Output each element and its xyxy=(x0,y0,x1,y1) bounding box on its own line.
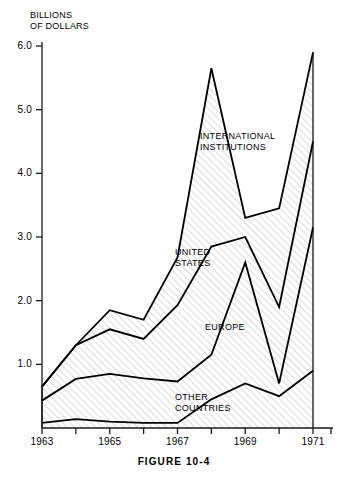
y-axis-tick-label: 1.0 xyxy=(6,358,32,369)
y-axis-title: BILLIONS OF DOLLARS xyxy=(30,10,89,32)
y-axis-tick-label: 3.0 xyxy=(6,231,32,242)
series-label-united-states: UNITED STATES xyxy=(175,247,210,269)
series-label-europe: EUROPE xyxy=(205,322,245,333)
y-axis-tick-label: 4.0 xyxy=(6,167,32,178)
series-label-international-institutions: INTERNATIONAL INSTITUTIONS xyxy=(200,131,275,153)
y-axis-tick-label: 2.0 xyxy=(6,295,32,306)
x-axis-tick-label: 1965 xyxy=(92,436,128,447)
x-axis-tick-label: 1969 xyxy=(227,436,263,447)
figure-caption: FIGURE 10-4 xyxy=(0,456,348,467)
area-bands xyxy=(42,52,313,428)
y-axis-tick-label: 6.0 xyxy=(6,40,32,51)
y-axis-tick-label: 5.0 xyxy=(6,104,32,115)
figure-container: BILLIONS OF DOLLARS 1.02.03.04.05.06.0 1… xyxy=(0,0,348,479)
stacked-area-chart xyxy=(0,0,348,479)
x-axis-tick-label: 1971 xyxy=(295,436,331,447)
x-axis-tick-label: 1967 xyxy=(160,436,196,447)
x-axis-tick-label: 1963 xyxy=(24,436,60,447)
series-label-other-countries: OTHER COUNTRIES xyxy=(175,392,231,414)
